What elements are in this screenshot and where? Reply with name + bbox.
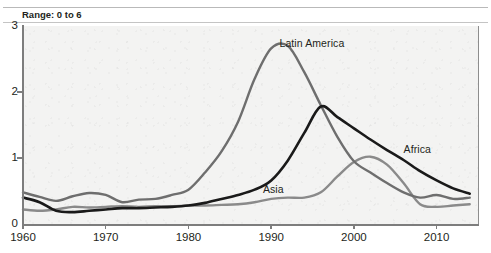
x-tick-1960	[22, 224, 23, 229]
x-tick-label-2010: 2010	[415, 231, 459, 243]
x-tick-label-1960: 1960	[1, 231, 45, 243]
chart-screenshot: Range: 0 to 6 0123 196019701980199020002…	[0, 0, 491, 253]
header-rule-bottom	[3, 22, 488, 23]
plot-area	[23, 26, 479, 224]
header-rule-top	[3, 7, 488, 8]
x-tick-label-1980: 1980	[166, 231, 210, 243]
clipped-header-strip	[0, 0, 491, 7]
x-tick-2000	[353, 224, 354, 229]
y-axis	[22, 25, 24, 225]
x-tick-1980	[188, 224, 189, 229]
x-axis	[22, 224, 479, 226]
x-tick-label-2000: 2000	[332, 231, 376, 243]
series-line-asia	[23, 157, 470, 211]
x-tick-label-1970: 1970	[84, 231, 128, 243]
x-tick-1970	[105, 224, 106, 229]
y-tick-label-1: 1	[0, 152, 18, 163]
series-label-latin-america: Latin America	[279, 37, 344, 49]
y-tick-label-2: 2	[0, 86, 18, 97]
series-label-africa: Africa	[404, 143, 431, 155]
series-line-africa	[23, 106, 470, 212]
series-lines	[23, 26, 478, 224]
y-tick-label-3: 3	[0, 20, 18, 31]
x-tick-label-1990: 1990	[249, 231, 293, 243]
series-label-asia: Asia	[263, 183, 284, 195]
x-tick-2010	[436, 224, 437, 229]
series-line-latin-america	[23, 43, 470, 202]
y-tick-label-0: 0	[0, 218, 18, 229]
range-note: Range: 0 to 6	[22, 9, 82, 20]
x-tick-1990	[270, 224, 271, 229]
